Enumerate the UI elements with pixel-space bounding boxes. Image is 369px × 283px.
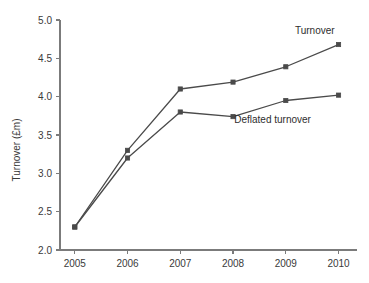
data-point-marker xyxy=(336,93,340,97)
y-tick-label: 3.5 xyxy=(38,130,52,141)
x-tick-label: 2010 xyxy=(327,258,350,269)
y-tick-label: 2.5 xyxy=(38,206,52,217)
x-tick-label: 2006 xyxy=(116,258,139,269)
x-tick-label: 2005 xyxy=(64,258,87,269)
x-axis-ticks xyxy=(75,250,339,254)
y-tick-label: 2.0 xyxy=(38,245,52,256)
series-line xyxy=(75,45,339,227)
data-point-marker xyxy=(336,42,340,46)
y-axis-tick-labels: 2.02.53.03.54.04.55.0 xyxy=(38,15,52,256)
line-chart-canvas: 2.02.53.03.54.04.55.0 200520062007200820… xyxy=(0,0,369,283)
data-point-marker xyxy=(284,65,288,69)
x-tick-label: 2007 xyxy=(169,258,192,269)
data-series-layer xyxy=(73,42,341,229)
y-axis-title: Turnover (£m) xyxy=(11,119,22,182)
y-tick-label: 3.0 xyxy=(38,168,52,179)
data-point-marker xyxy=(284,98,288,102)
x-tick-label: 2009 xyxy=(275,258,298,269)
x-tick-label: 2008 xyxy=(222,258,245,269)
y-tick-label: 4.0 xyxy=(38,91,52,102)
data-point-marker xyxy=(73,225,77,229)
y-tick-label: 5.0 xyxy=(38,15,52,26)
data-point-marker xyxy=(231,80,235,84)
data-point-marker xyxy=(178,110,182,114)
series-annotations: TurnoverDeflated turnover xyxy=(234,25,335,125)
data-point-marker xyxy=(125,156,129,160)
x-axis-tick-labels: 200520062007200820092010 xyxy=(64,258,350,269)
data-point-marker xyxy=(178,87,182,91)
y-tick-label: 4.5 xyxy=(38,53,52,64)
series-annotation-label: Turnover xyxy=(295,25,335,36)
y-axis-ticks xyxy=(56,20,60,250)
data-point-marker xyxy=(125,148,129,152)
chart-figure: 2.02.53.03.54.04.55.0 200520062007200820… xyxy=(0,0,369,283)
series-annotation-label: Deflated turnover xyxy=(234,114,311,125)
